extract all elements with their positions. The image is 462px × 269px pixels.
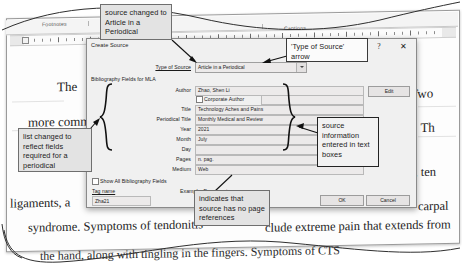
ok-button[interactable]: OK [320,195,364,206]
cancel-button[interactable]: Cancel [366,195,410,206]
field-value-medium: Web [198,166,208,172]
chevron-down-icon[interactable] [296,63,306,72]
corporate-author-input[interactable] [261,95,364,105]
field-label-title: Title [127,106,191,112]
ruler-indent-marker[interactable] [22,37,29,44]
field-input-author[interactable]: Zhao, Shen Li [195,86,364,96]
field-label-pages: Pages [127,156,191,162]
callout-source-information: source information entered in text boxes [317,117,379,167]
tag-name-value: Zha21 [95,198,109,204]
tag-name-input[interactable]: Zha21 [92,196,151,206]
field-label-medium: Medium [127,166,191,172]
callout-no-page-references: indicates that source has no page refere… [194,190,270,226]
ribbon-divider [262,24,263,29]
type-of-source-label: Type of Source [123,64,191,70]
field-value-month: July [198,136,207,142]
dialog-title: Create Source [91,42,128,48]
help-icon[interactable]: ? [372,41,386,53]
field-input-title[interactable]: Technology Aches and Pains [195,105,364,115]
close-icon[interactable]: ✕ [394,41,412,53]
field-value-title: Technology Aches and Pains [198,106,263,112]
field-value-author: Zhao, Shen Li [198,87,230,93]
field-label-day: Day [127,146,191,152]
bibliography-fields-label: Bibliography Fields for MLA [91,76,211,82]
field-label-periodical-title: Periodical Title [117,116,191,122]
doc-text-the: The [57,79,77,95]
field-label-month: Month [127,136,191,142]
corporate-author-checkbox[interactable] [196,96,203,103]
type-of-source-value: Article in a Periodical [198,64,245,70]
doc-text-carpal: carpal [418,199,449,215]
show-all-bibliography-fields-checkbox[interactable] [92,178,99,185]
field-value-periodical-title: Monthly Medical and Review [198,116,263,122]
show-all-bibliography-fields-label: Show All Bibliography Fields [100,178,230,184]
field-value-year: 2021 [198,126,209,132]
field-label-year: Year [127,126,191,132]
callout-source-changed: source changed to Article in a Periodica… [100,4,172,40]
field-value-pages: n. pag. [198,156,214,162]
callout-type-of-source-arrow: 'Type of Source' arrow [286,38,368,62]
callout-list-changed: list changed to reflect fields required … [18,128,92,172]
type-of-source-dropdown[interactable]: Article in a Periodical [195,62,307,73]
doc-text-ligaments: ligaments, a [10,195,70,211]
ribbon-group-footnotes: Footnotes [42,21,67,27]
field-label-author: Author [127,87,191,93]
ribbon-divider [88,21,89,26]
screenshot-root: Footnotes Captions Index [0,0,462,269]
edit-button[interactable]: Edit [368,86,410,97]
tag-name-label: Tag name [92,188,142,194]
